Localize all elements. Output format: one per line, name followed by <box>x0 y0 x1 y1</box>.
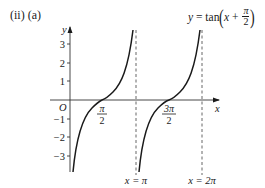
y-tick-label: −1 <box>54 114 65 125</box>
x-tick-numerator: 3π <box>163 103 175 114</box>
y-tick-label: 3 <box>60 39 65 50</box>
tan-curve-branch-2 <box>139 30 200 172</box>
y-tick-label: 1 <box>60 76 65 87</box>
y-tick-label: 2 <box>60 58 65 69</box>
x-tick-3pi-over-2: 3π 2 <box>162 103 176 126</box>
x-tick-pi-over-2: π 2 <box>97 103 107 126</box>
origin-label: O <box>59 102 67 113</box>
y-axis-label: y <box>61 24 67 35</box>
tan-curve-branch-1 <box>73 30 133 172</box>
y-tick-label: −2 <box>54 132 65 143</box>
tan-graph: 3 2 1 −1 −2 −3 y x O π 2 3π 2 x = π x = … <box>0 0 265 188</box>
asymptote-label-2pi: x = 2π <box>187 175 216 186</box>
asymptote-label-pi: x = π <box>124 175 148 186</box>
x-tick-numerator: π <box>99 103 105 114</box>
x-tick-denominator: 2 <box>100 115 105 126</box>
x-axis-label: x <box>214 103 220 114</box>
x-tick-denominator: 2 <box>167 115 172 126</box>
y-tick-label: −3 <box>54 151 65 162</box>
